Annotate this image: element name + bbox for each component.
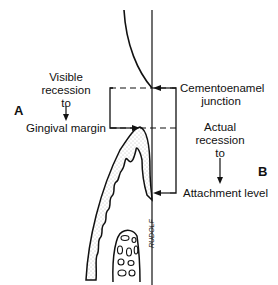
label-a: A: [14, 103, 23, 118]
actual-recession-label: Actual recession to: [190, 121, 250, 160]
bone-marrow-spaces: [118, 236, 138, 277]
actual-recession-bracket: [170, 88, 176, 193]
visible-recession-label: Visible recession to: [36, 71, 96, 110]
enamel-outline: [124, 10, 152, 88]
label-b: B: [258, 164, 267, 179]
gingival-margin-label: Gingival margin: [26, 122, 106, 135]
gingiva: [86, 127, 152, 280]
cej-label: Cementoenamel junction: [180, 82, 262, 108]
attachment-level-label: Attachment level: [183, 187, 268, 200]
artist-signature: RUDOLF: [148, 219, 155, 248]
visible-recession-bracket: [110, 88, 117, 128]
